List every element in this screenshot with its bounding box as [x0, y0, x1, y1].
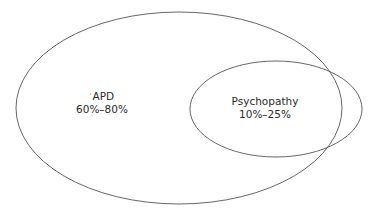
apd-name: APD — [93, 90, 115, 102]
venn-shapes — [0, 0, 379, 214]
psychopathy-label: Psychopathy 10%–25% — [220, 95, 310, 121]
psychopathy-name: Psychopathy — [220, 95, 310, 108]
apd-name-line: ˈAPD — [62, 90, 142, 103]
apd-marker: ˈ — [90, 92, 92, 99]
apd-range: 60%–80% — [62, 103, 142, 116]
apd-label: ˈAPD 60%–80% — [62, 90, 142, 116]
venn-diagram: ˈAPD 60%–80% Psychopathy 10%–25% — [0, 0, 379, 214]
psychopathy-range: 10%–25% — [220, 108, 310, 121]
